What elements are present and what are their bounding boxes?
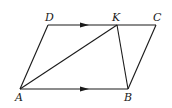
parallelogram-diagram: D K C A B <box>0 0 172 108</box>
parallel-arrow-ab-icon <box>80 87 89 92</box>
label-d: D <box>44 11 54 24</box>
segment-kb <box>117 25 128 89</box>
parallel-arrow-dc-icon <box>80 23 89 28</box>
label-k: K <box>111 11 121 24</box>
label-c: C <box>153 11 162 24</box>
segment-bc <box>128 25 156 89</box>
label-a: A <box>14 91 23 104</box>
label-b: B <box>123 91 132 104</box>
